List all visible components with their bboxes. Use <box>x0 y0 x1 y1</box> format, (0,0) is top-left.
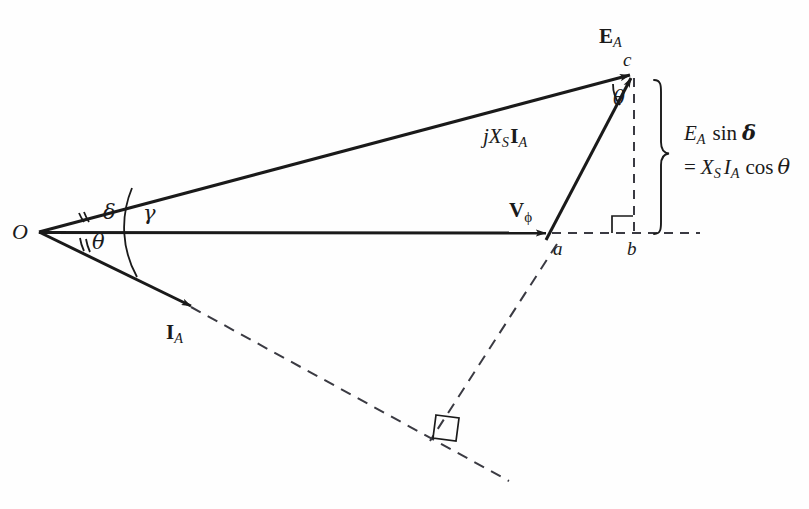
label-point-a: a <box>553 239 563 258</box>
label-angle-gamma: γ <box>143 203 156 224</box>
label-jxsia-x-sub: S <box>502 134 509 150</box>
label-ia-main: I <box>166 320 174 344</box>
label-jxsia-i: I <box>510 124 518 148</box>
annotation-i: I <box>724 155 731 179</box>
label-ea-main: E <box>599 24 613 48</box>
annotation-x-sub: S <box>714 165 721 181</box>
phasor-line-ia <box>39 232 191 306</box>
annotation-theta: θ <box>778 155 791 179</box>
label-jxsia-i-sub: A <box>519 134 528 150</box>
right-angle-marker-lower <box>433 415 459 441</box>
label-vphi-main: V <box>509 198 524 222</box>
construction-lines <box>191 78 700 481</box>
annotation-cos: cos <box>746 155 774 179</box>
annotation-e-sub: A <box>697 131 706 147</box>
phasor-line-vphi <box>39 233 546 234</box>
label-ea-sub: A <box>613 34 622 50</box>
label-ia-sub: A <box>174 330 183 346</box>
annotation-delta: δ <box>742 120 756 145</box>
label-angle-theta-origin: θ <box>92 232 105 253</box>
annotation-equals: = <box>684 155 696 179</box>
phasor-diagram-canvas <box>0 0 809 509</box>
label-angle-theta-top: θ <box>613 88 625 108</box>
label-vphi-phasor: Vϕ <box>509 200 532 225</box>
label-jxsia-x: X <box>489 124 502 148</box>
angle-arc-theta-inner-1 <box>80 238 84 251</box>
angle-arc-theta-inner-2 <box>86 239 90 252</box>
right-angle-marker-b <box>612 216 633 233</box>
annotation-ea-sin-delta: EAsinδ <box>684 122 756 147</box>
label-jxsia-phasor: jXSIA <box>483 126 527 150</box>
label-point-c: c <box>623 50 631 69</box>
label-ia-phasor: IA <box>166 322 183 346</box>
label-origin: O <box>12 221 28 243</box>
annotation-sin: sin <box>713 121 738 145</box>
annotation-xs-ia-cos-theta: =XSIAcosθ <box>684 157 790 181</box>
label-vphi-sub: ϕ <box>524 209 532 225</box>
dashed-line-a-perpendicular <box>430 244 557 441</box>
label-angle-delta: δ <box>103 202 116 223</box>
annotation-i-sub: A <box>731 165 740 181</box>
phasor-diagram-figure: O EA c θ jXSIA Vϕ a b δ γ θ IA EAsinδ =X… <box>0 0 809 509</box>
brace-ea-sin-delta <box>654 80 669 234</box>
label-point-b: b <box>627 239 637 258</box>
phasor-lines <box>39 75 631 306</box>
label-ea-phasor: EA <box>599 26 622 50</box>
annotation-x: X <box>701 155 714 179</box>
annotation-e: E <box>684 121 697 145</box>
phasor-line-ea <box>39 75 630 232</box>
